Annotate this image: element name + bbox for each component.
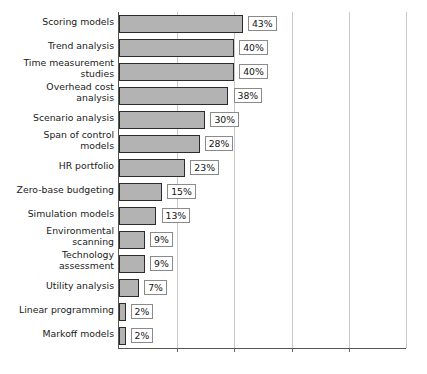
value-label: 38% bbox=[234, 88, 263, 103]
bar bbox=[119, 183, 162, 201]
bar-row: Markoff models 2% bbox=[0, 324, 427, 348]
bar bbox=[119, 207, 156, 225]
bar bbox=[119, 231, 145, 249]
tick-80 bbox=[349, 348, 350, 352]
bar bbox=[119, 135, 200, 153]
value-label: 40% bbox=[239, 40, 268, 55]
category-label: Overhead cost analysis bbox=[0, 81, 114, 103]
bar-row: Scoring models 43% bbox=[0, 12, 427, 36]
bar-row: Overhead cost analysis 38% bbox=[0, 84, 427, 108]
category-label: Scoring models bbox=[0, 16, 114, 27]
value-label: 23% bbox=[190, 160, 219, 175]
tick-60 bbox=[292, 348, 293, 352]
category-label: Utility analysis bbox=[0, 280, 114, 291]
bar-row: Technology assessment 9% bbox=[0, 252, 427, 276]
bar-row: HR portfolio 23% bbox=[0, 156, 427, 180]
category-label: Scenario analysis bbox=[0, 112, 114, 123]
category-label: Trend analysis bbox=[0, 40, 114, 51]
category-label: Linear programming bbox=[0, 304, 114, 315]
value-label: 30% bbox=[210, 112, 239, 127]
value-label: 15% bbox=[167, 184, 196, 199]
bar-row: Linear programming 2% bbox=[0, 300, 427, 324]
value-label: 9% bbox=[150, 232, 173, 247]
value-label: 2% bbox=[131, 304, 154, 319]
bar-rows: Scoring models 43% Trend analysis 40% Ti… bbox=[0, 12, 427, 348]
value-label: 28% bbox=[205, 136, 234, 151]
category-label: Simulation models bbox=[0, 208, 114, 219]
category-label: HR portfolio bbox=[0, 160, 114, 171]
bar bbox=[119, 87, 228, 105]
value-label: 43% bbox=[248, 16, 277, 31]
category-label: Markoff models bbox=[0, 328, 114, 339]
bar-row: Utility analysis 7% bbox=[0, 276, 427, 300]
value-label: 40% bbox=[239, 64, 268, 79]
value-label: 9% bbox=[150, 256, 173, 271]
bar-row: Span of control models 28% bbox=[0, 132, 427, 156]
bar bbox=[119, 327, 126, 345]
bar-chart: Scoring models 43% Trend analysis 40% Ti… bbox=[0, 0, 427, 374]
category-label: Zero-base budgeting bbox=[0, 184, 114, 195]
bar bbox=[119, 39, 234, 57]
category-label: Span of control models bbox=[0, 129, 114, 151]
bar-row: Zero-base budgeting 15% bbox=[0, 180, 427, 204]
bar bbox=[119, 303, 126, 321]
value-label: 13% bbox=[162, 208, 191, 223]
bar bbox=[119, 279, 139, 297]
bar bbox=[119, 159, 185, 177]
category-label: Environmental scanning bbox=[0, 225, 114, 247]
bar bbox=[119, 63, 234, 81]
tick-40 bbox=[234, 348, 235, 352]
bar bbox=[119, 255, 145, 273]
bar bbox=[119, 111, 205, 129]
category-label: Technology assessment bbox=[0, 249, 114, 271]
tick-20 bbox=[177, 348, 178, 352]
value-label: 2% bbox=[131, 328, 154, 343]
category-label: Time measurement studies bbox=[0, 57, 114, 79]
value-label: 7% bbox=[144, 280, 167, 295]
bar bbox=[119, 15, 243, 33]
